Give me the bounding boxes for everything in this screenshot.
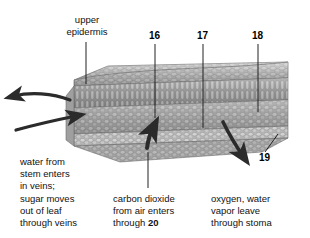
caption-center-line-3-prefix: through [113, 217, 148, 228]
caption-center-line-3-number: 20 [148, 217, 159, 228]
caption-left-line-4: sugar moves [20, 193, 112, 205]
caption-right-line-3: through stoma [211, 217, 307, 229]
caption-right-line-2: vapor leave [211, 205, 307, 217]
label-number-16: 16 [149, 30, 160, 41]
caption-oxygen-stoma: oxygen, water vapor leave through stoma [211, 193, 307, 230]
label-number-17: 17 [197, 30, 208, 41]
caption-carbon-dioxide: carbon dioxide from air enters through 2… [113, 193, 209, 230]
caption-center-line-2: from air enters [113, 205, 209, 217]
caption-right-line-1: oxygen, water [211, 193, 307, 205]
caption-left-line-1: water from [20, 156, 112, 168]
arrow-water-out-left [14, 94, 70, 100]
caption-water-veins: water from stem enters in veins; sugar m… [20, 156, 112, 229]
label-upper-epidermis: upper epidermis [56, 14, 118, 37]
caption-left-line-6: through veins [20, 217, 112, 229]
caption-center-line-3: through 20 [113, 217, 209, 229]
label-number-18: 18 [252, 30, 263, 41]
caption-left-line-2: stem enters [20, 168, 112, 180]
caption-left-line-3: in veins; [20, 180, 112, 192]
leaf-diagram-figure: upper epidermis 16 17 18 19 water from s… [0, 0, 310, 238]
caption-left-line-5: out of leaf [20, 205, 112, 217]
label-number-19: 19 [259, 152, 270, 163]
caption-center-line-1: carbon dioxide [113, 193, 209, 205]
